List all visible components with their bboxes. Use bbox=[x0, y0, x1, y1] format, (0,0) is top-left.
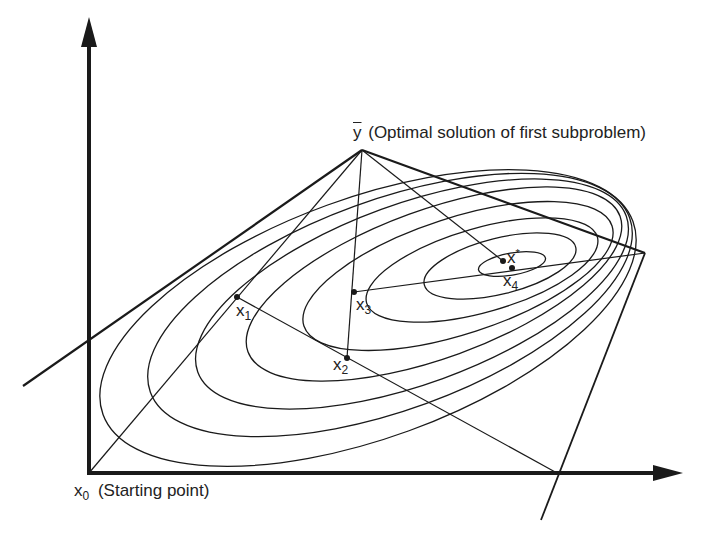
x3-symbol: x bbox=[356, 295, 365, 314]
ybar-description: (Optimal solution of first subproblem) bbox=[368, 123, 646, 142]
contour-6 bbox=[355, 197, 609, 344]
x4-subscript: 4 bbox=[512, 279, 519, 293]
xstar-superscript: * bbox=[516, 247, 520, 259]
contour-1 bbox=[62, 109, 674, 527]
x0-subscript: 0 bbox=[83, 489, 90, 503]
contour-lines bbox=[62, 109, 674, 527]
line-x2-to-ybar bbox=[347, 150, 362, 358]
contour-5 bbox=[286, 171, 630, 381]
point-xstar bbox=[500, 258, 506, 264]
boundary-right bbox=[541, 253, 645, 520]
ybar-symbol: y bbox=[353, 123, 362, 142]
x4-symbol: x bbox=[503, 271, 512, 290]
contour-7 bbox=[418, 220, 583, 312]
x0-description: (Starting point) bbox=[98, 481, 210, 500]
x2-symbol: x bbox=[333, 355, 342, 374]
x2-subscript: 2 bbox=[342, 363, 349, 377]
axes bbox=[81, 17, 683, 481]
feasible-region-boundary bbox=[23, 150, 645, 520]
x3-subscript: 3 bbox=[365, 303, 372, 317]
contour-2 bbox=[114, 119, 665, 491]
x0-symbol: x bbox=[74, 481, 83, 500]
diagram-canvas bbox=[0, 0, 727, 538]
label-xstar: x* bbox=[507, 248, 520, 266]
xstar-symbol: x bbox=[507, 248, 516, 267]
label-x0: x0 (Starting point) bbox=[74, 482, 209, 502]
label-ybar: y (Optimal solution of first subproblem) bbox=[353, 124, 646, 141]
x1-symbol: x bbox=[236, 301, 245, 320]
x1-subscript: 1 bbox=[245, 309, 252, 323]
y-axis-arrow-icon bbox=[81, 17, 97, 47]
x-axis-arrow-icon bbox=[653, 465, 683, 481]
point-x1 bbox=[234, 294, 240, 300]
iterate-points bbox=[234, 258, 515, 361]
label-x4: x4 bbox=[503, 272, 518, 292]
label-x3: x3 bbox=[356, 296, 371, 316]
contour-4 bbox=[223, 147, 646, 422]
label-x1: x1 bbox=[236, 302, 251, 322]
label-x2: x2 bbox=[333, 356, 348, 376]
